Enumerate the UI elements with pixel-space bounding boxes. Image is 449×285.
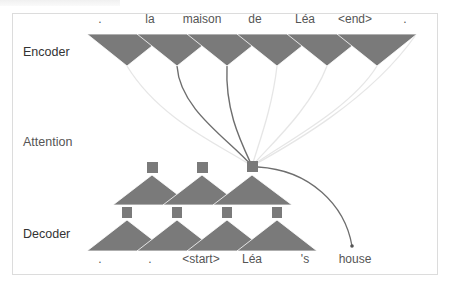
decoder-token: <start> xyxy=(182,252,219,266)
attention-label: Attention xyxy=(23,135,72,149)
decoder-upper-nodes xyxy=(147,161,258,173)
encoder-token: <end> xyxy=(338,12,372,26)
encoder-token: . xyxy=(403,12,406,26)
attention-strong-lines xyxy=(177,66,252,166)
decoder-upper-triangles xyxy=(113,175,292,205)
decoder-token: . xyxy=(98,252,101,266)
decoder-lower-nodes xyxy=(122,207,282,218)
arrow-head xyxy=(350,244,354,248)
encoder-token: . xyxy=(98,12,101,26)
encoder-label: Encoder xyxy=(23,45,70,59)
decoder-label: Decoder xyxy=(23,227,70,241)
encoder-token: de xyxy=(248,12,261,26)
decoder-lower-triangles xyxy=(87,220,317,251)
encoder-token: Léa xyxy=(295,12,315,26)
encoder-token: maison xyxy=(183,12,222,26)
encoder-triangles xyxy=(87,34,417,66)
decoder-token: . xyxy=(148,252,151,266)
decoder-token: 's xyxy=(301,252,309,266)
decoder-token: house xyxy=(339,252,372,266)
encoder-token: la xyxy=(145,12,154,26)
decoder-token: Léa xyxy=(242,252,262,266)
